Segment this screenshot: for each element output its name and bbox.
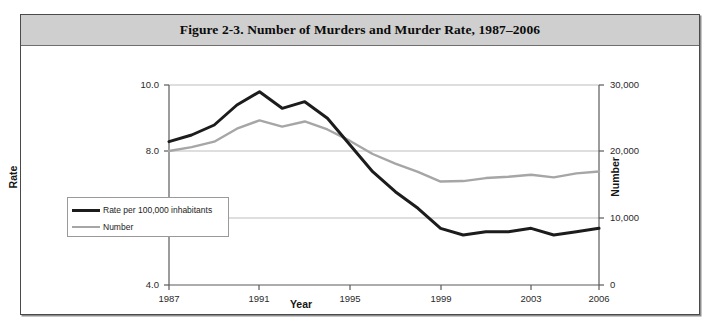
- x-tick-2006: 2006: [576, 293, 622, 304]
- y-tick-right-10000: 10,000: [610, 212, 662, 223]
- x-tick-1991: 1991: [236, 293, 282, 304]
- x-tick-1999: 1999: [418, 293, 464, 304]
- axis-ticks: [164, 85, 604, 290]
- legend-item-rate: Rate per 100,000 inhabitants: [72, 204, 212, 216]
- figure-title-band: Figure 2-3. Number of Murders and Murder…: [21, 15, 699, 46]
- y-axis-right-title: Number: [609, 157, 621, 197]
- x-tick-1995: 1995: [327, 293, 373, 304]
- legend-label-number: Number: [103, 222, 133, 232]
- page-title: Figure 2-3. Number of Murders and Murder…: [180, 22, 540, 38]
- x-tick-1987: 1987: [146, 293, 192, 304]
- legend-swatch-number-icon: [72, 226, 100, 228]
- y-tick-right-20000: 20,000: [610, 145, 662, 156]
- chart-plot-area: Rate Number Year 10.0 8.0 6.0 4.0 30,000…: [21, 46, 699, 314]
- axis-lines: [169, 85, 599, 285]
- y-axis-left-title: Rate: [7, 166, 19, 189]
- figure-frame: Figure 2-3. Number of Murders and Murder…: [20, 14, 700, 315]
- y-tick-right-30000: 30,000: [610, 79, 662, 90]
- chart-legend: Rate per 100,000 inhabitants Number: [67, 197, 229, 237]
- legend-label-rate: Rate per 100,000 inhabitants: [103, 205, 212, 215]
- x-tick-2003: 2003: [508, 293, 554, 304]
- legend-item-number: Number: [72, 221, 133, 233]
- x-axis-title: Year: [21, 298, 581, 310]
- legend-swatch-rate-icon: [72, 209, 100, 212]
- y-tick-left-10: 10.0: [117, 79, 159, 90]
- y-tick-right-0: 0: [610, 279, 662, 290]
- y-tick-left-8: 8.0: [117, 145, 159, 156]
- series-line-rate: [169, 92, 599, 235]
- y-tick-left-4: 4.0: [117, 279, 159, 290]
- grid-lines: [169, 85, 599, 218]
